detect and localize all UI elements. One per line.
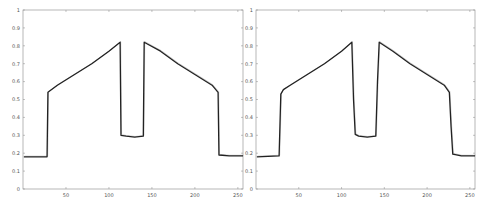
- y-tick-label: 1: [250, 7, 253, 13]
- axes-box: [256, 10, 475, 189]
- line-charts: 00.10.20.30.40.50.60.70.80.9150100150200…: [0, 0, 488, 209]
- x-tick-label: 50: [63, 192, 69, 198]
- x-tick-label: 50: [296, 192, 302, 198]
- x-tick-label: 200: [190, 192, 200, 198]
- y-tick-label: 0.8: [12, 43, 20, 49]
- y-tick-label: 0.9: [245, 25, 253, 31]
- series-line: [24, 42, 243, 157]
- plot-1: 00.10.20.30.40.50.60.70.80.9150100150200…: [12, 7, 244, 198]
- y-tick-label: 1: [17, 7, 20, 13]
- y-tick-label: 0.3: [245, 132, 253, 138]
- y-tick-label: 0.9: [12, 25, 20, 31]
- y-tick-label: 0.6: [245, 78, 253, 84]
- plot-2: 00.10.20.30.40.50.60.70.80.9150100150200…: [245, 7, 476, 198]
- y-tick-label: 0.4: [245, 114, 253, 120]
- y-tick-label: 0.1: [245, 168, 253, 174]
- axes-box: [23, 10, 243, 189]
- y-tick-label: 0.2: [245, 150, 253, 156]
- y-tick-label: 0.1: [12, 168, 20, 174]
- y-tick-label: 0.5: [12, 96, 20, 102]
- y-tick-label: 0: [17, 186, 20, 192]
- x-tick-label: 100: [104, 192, 114, 198]
- y-tick-label: 0.8: [245, 43, 253, 49]
- x-tick-label: 150: [147, 192, 157, 198]
- y-tick-label: 0.2: [12, 150, 20, 156]
- reference-line: [24, 42, 243, 157]
- y-tick-label: 0: [250, 186, 253, 192]
- y-tick-label: 0.3: [12, 132, 20, 138]
- series-line: [257, 42, 475, 157]
- y-tick-label: 0.6: [12, 78, 20, 84]
- x-tick-label: 150: [380, 192, 390, 198]
- y-tick-label: 0.7: [12, 61, 20, 67]
- x-tick-label: 200: [422, 192, 432, 198]
- y-tick-label: 0.5: [245, 96, 253, 102]
- y-tick-label: 0.4: [12, 114, 20, 120]
- x-tick-label: 250: [465, 192, 475, 198]
- y-tick-label: 0.7: [245, 61, 253, 67]
- x-tick-label: 250: [233, 192, 243, 198]
- reference-line: [257, 42, 475, 157]
- figure: 00.10.20.30.40.50.60.70.80.9150100150200…: [0, 0, 488, 209]
- x-tick-label: 100: [337, 192, 347, 198]
